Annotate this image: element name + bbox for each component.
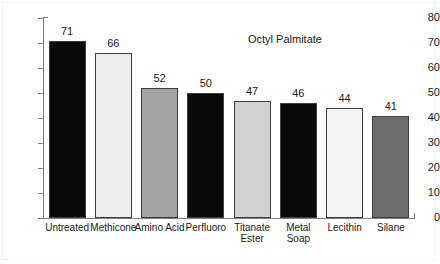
bar-lecithin: [326, 108, 363, 218]
x-axis-tick-label-line: Silane: [363, 222, 419, 233]
bar-value-label: 47: [229, 86, 275, 97]
bar-titanate-ester: [234, 101, 271, 219]
bar-perfluoro: [187, 93, 224, 218]
bar-value-label: 52: [137, 73, 183, 84]
bar-chart-figure: 01020304050607080 Octyl Palmitate 71Untr…: [0, 0, 440, 264]
bar-value-label: 50: [183, 78, 229, 89]
bar-amino-acid: [141, 88, 178, 218]
bar-methicone: [95, 53, 132, 218]
y-axis-tick-mark: [38, 218, 44, 219]
x-axis-tick-label-line: Soap: [270, 233, 326, 244]
bar-untreated: [49, 41, 86, 219]
bar-value-label: 41: [368, 101, 414, 112]
bar-value-label: 44: [322, 93, 368, 104]
bar-value-label: 46: [275, 88, 321, 99]
bar-value-label: 71: [44, 26, 90, 37]
bar-metal-soap: [280, 103, 317, 218]
bar-silane: [372, 116, 409, 219]
x-axis-tick-label: Silane: [363, 222, 419, 233]
bar-value-label: 66: [90, 38, 136, 49]
